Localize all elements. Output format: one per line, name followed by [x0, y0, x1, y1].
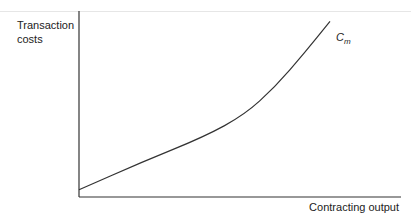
cm-curve: [79, 21, 330, 189]
x-axis-label: Contracting output: [309, 201, 399, 213]
y-axis-label: Transactioncosts: [17, 18, 74, 46]
curve-label: Cm: [336, 31, 351, 46]
